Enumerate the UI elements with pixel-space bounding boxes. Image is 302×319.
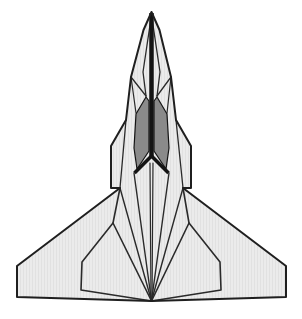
figure-canvas: Top-view line drawing of a delta-wing je…	[0, 0, 302, 319]
aircraft-diagram: Top-view line drawing of a delta-wing je…	[0, 0, 302, 319]
